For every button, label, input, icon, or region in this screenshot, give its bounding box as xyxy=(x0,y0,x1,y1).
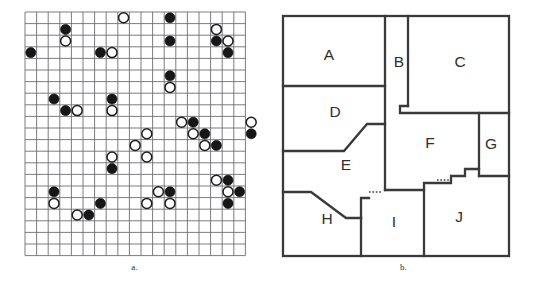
stone-white xyxy=(107,48,117,58)
stone-white xyxy=(188,129,198,139)
wall-d-e-diagonal xyxy=(283,124,385,151)
room-label-g: G xyxy=(485,135,497,152)
stone-white xyxy=(130,140,140,150)
stone-black xyxy=(165,187,175,197)
stone-black xyxy=(107,164,117,174)
stone-white xyxy=(165,82,175,92)
stone-white xyxy=(142,129,152,139)
panel-a-stone-grid: a. xyxy=(0,0,269,282)
stone-white xyxy=(211,24,221,34)
room-label-i: I xyxy=(392,213,396,230)
stone-black xyxy=(188,117,198,127)
room-label-b: B xyxy=(394,53,404,70)
stone-grid-canvas xyxy=(0,0,269,258)
stone-white xyxy=(61,36,71,46)
stone-white xyxy=(153,187,163,197)
stone-white xyxy=(211,175,221,185)
stone-white xyxy=(246,117,256,127)
stone-black xyxy=(165,13,175,23)
stone-black xyxy=(165,71,175,81)
wall-e-i-step xyxy=(361,198,369,218)
wall-c-f-divider xyxy=(400,106,509,113)
panel-b-caption: b. xyxy=(269,262,538,272)
figure-root: a. ABCDEFGHIJ b. xyxy=(0,0,538,282)
stone-white xyxy=(49,198,59,208)
stone-black xyxy=(84,210,94,220)
stone-black xyxy=(211,36,221,46)
room-label-h: H xyxy=(321,210,332,227)
stone-white xyxy=(223,187,233,197)
stone-white xyxy=(200,140,210,150)
room-labels: ABCDEFGHIJ xyxy=(321,46,497,230)
stone-white xyxy=(165,198,175,208)
stone-black xyxy=(95,198,105,208)
stone-white xyxy=(142,152,152,162)
stone-white xyxy=(142,198,152,208)
stone-white xyxy=(72,106,82,116)
stone-black xyxy=(107,94,117,104)
floor-plan-canvas: ABCDEFGHIJ xyxy=(269,0,538,258)
panel-b-floor-plan: ABCDEFGHIJ b. xyxy=(269,0,538,282)
stone-white xyxy=(72,210,82,220)
room-label-e: E xyxy=(341,156,351,173)
stone-black xyxy=(200,129,210,139)
panel-a-caption: a. xyxy=(0,262,269,272)
room-label-c: C xyxy=(454,53,465,70)
stone-white xyxy=(177,117,187,127)
stone-black xyxy=(246,129,256,139)
stone-black xyxy=(26,48,36,58)
stone-black xyxy=(235,187,245,197)
stone-white xyxy=(107,106,117,116)
stone-black xyxy=(223,175,233,185)
stone-black xyxy=(223,48,233,58)
room-label-a: A xyxy=(324,46,335,63)
room-label-f: F xyxy=(425,134,434,151)
wall-e-f-bottom xyxy=(385,169,479,190)
stone-white xyxy=(107,152,117,162)
stone-black xyxy=(165,36,175,46)
stone-black xyxy=(61,106,71,116)
stone-black xyxy=(49,187,59,197)
stone-black xyxy=(95,48,105,58)
grid-lines xyxy=(25,12,245,256)
stone-black xyxy=(211,140,221,150)
stone-white xyxy=(119,13,129,23)
stone-white xyxy=(223,36,233,46)
stone-black xyxy=(223,198,233,208)
room-label-j: J xyxy=(455,208,463,225)
room-label-d: D xyxy=(329,103,340,120)
stone-black xyxy=(49,94,59,104)
stone-black xyxy=(61,24,71,34)
